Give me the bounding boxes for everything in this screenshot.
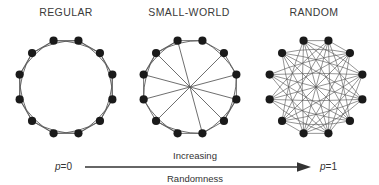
p-value-right: =1 xyxy=(326,161,337,172)
axis-arrowhead xyxy=(297,162,311,172)
watts-strogatz-figure: REGULAR SMALL-WORLD RANDOM p=0 p=1 Incre… xyxy=(0,0,379,185)
p-value-left: =0 xyxy=(61,161,72,172)
axis-caption: Increasing Randomness xyxy=(143,150,247,184)
p-label-left: p=0 xyxy=(55,161,72,172)
axis-caption-line-2: Randomness xyxy=(143,173,247,185)
axis-caption-line-1: Increasing xyxy=(173,150,217,161)
p-label-right: p=1 xyxy=(320,161,337,172)
